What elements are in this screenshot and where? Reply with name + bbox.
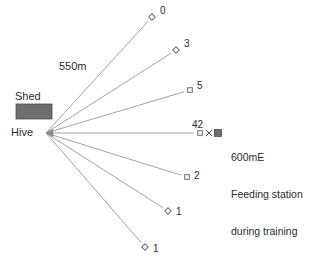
ray-marker-ray-42 bbox=[198, 131, 203, 136]
shed-rectangle bbox=[16, 104, 52, 119]
feeding-station-caption: 600mE Feeding station during training bbox=[231, 126, 303, 262]
feeding-station-marker bbox=[215, 130, 222, 137]
hive-label: Hive bbox=[11, 126, 33, 139]
ray-line-ray-2 bbox=[46, 133, 181, 175]
ray-lines-group bbox=[46, 21, 194, 242]
distance-annotation-550m: 550m bbox=[59, 60, 87, 73]
ray-line-ray-1b bbox=[46, 133, 141, 242]
count-label-ray-2: 2 bbox=[194, 170, 200, 182]
ray-marker-ray-1b bbox=[142, 244, 149, 251]
feeding-station-caption-line-2: Feeding station bbox=[231, 188, 303, 200]
feeding-station-caption-line-3: during training bbox=[231, 225, 303, 237]
diagram-canvas: Shed Hive 550m 42 600mE Feeding station … bbox=[0, 0, 311, 268]
count-label-ray-0: 0 bbox=[160, 5, 166, 17]
count-label-42: 42 bbox=[192, 119, 203, 131]
ray-line-ray-5 bbox=[46, 92, 184, 133]
ray-marker-ray-0 bbox=[149, 14, 156, 21]
ray-markers-group bbox=[142, 14, 203, 251]
ray-marker-ray-5 bbox=[188, 88, 193, 93]
count-label-ray-3: 3 bbox=[184, 38, 190, 50]
ray-marker-ray-2 bbox=[185, 175, 190, 180]
ray-marker-ray-3 bbox=[173, 47, 180, 54]
shed-label: Shed bbox=[15, 90, 41, 103]
ray-line-ray-1a bbox=[46, 133, 163, 208]
count-label-ray-1a: 1 bbox=[176, 206, 182, 218]
feeding-station-caption-line-1: 600mE bbox=[231, 151, 303, 163]
shed-shape-group bbox=[16, 104, 52, 119]
feeding-station-group bbox=[206, 130, 222, 137]
ray-marker-ray-1a bbox=[165, 208, 172, 215]
count-label-ray-5: 5 bbox=[197, 80, 203, 92]
count-label-ray-1b: 1 bbox=[153, 243, 159, 255]
